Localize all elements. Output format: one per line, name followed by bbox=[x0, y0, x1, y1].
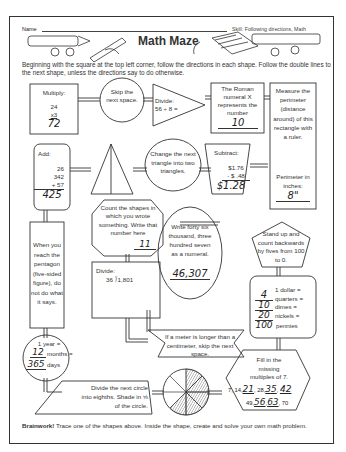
multiple-14: 14, bbox=[234, 387, 242, 393]
perimeter-label: Perimeter in inches: bbox=[272, 172, 314, 190]
multiply-a: 24 bbox=[30, 103, 78, 111]
multiple-49: 49, bbox=[246, 400, 254, 406]
subtract-label: Subtract: bbox=[214, 149, 239, 157]
multiple-70: , 70 bbox=[279, 400, 289, 406]
multiple-42-answer[interactable]: 42 bbox=[280, 384, 291, 394]
multiple-63-answer[interactable]: 63 bbox=[267, 397, 278, 407]
write-text: Write forty six thousand, three hundred … bbox=[166, 222, 214, 258]
meter-text: If a meter is longer than a centimeter, … bbox=[160, 333, 240, 359]
money-pennies-label: pennies bbox=[276, 322, 298, 330]
brainwork-body: Trace one of the shapes above. Inside th… bbox=[54, 422, 306, 429]
money-quarters-label: quarters = bbox=[275, 295, 303, 303]
eighths-text: Divide the next circle into eighths. Sha… bbox=[80, 383, 148, 410]
add-b: 342 bbox=[34, 173, 64, 181]
skip-text: Skip the next space. bbox=[106, 88, 138, 104]
multiply-answer[interactable]: 72 bbox=[30, 118, 78, 129]
perimeter-answer[interactable]: 8" bbox=[276, 190, 310, 202]
roman-answer[interactable]: 10 bbox=[218, 117, 258, 129]
brainwork-text: Brainwork! Trace one of the shapes above… bbox=[22, 422, 322, 430]
multiple-7: 7, bbox=[228, 387, 233, 393]
brainwork-label: Brainwork! bbox=[22, 422, 54, 429]
pentagon-note-text: When you reach the pentagon (five-sided … bbox=[30, 240, 64, 307]
write-answer[interactable]: 46,307 bbox=[170, 268, 210, 280]
divide1-expr: 56 ÷ 8 = bbox=[155, 105, 191, 113]
year-months-label: months = bbox=[47, 350, 73, 358]
count-answer[interactable]: 11 bbox=[134, 239, 156, 250]
year-days-label: days bbox=[47, 361, 60, 369]
multiples-row2: 49,56,63, 70 bbox=[246, 397, 306, 407]
multiples-text: Fill in the missing multiples of 7. bbox=[246, 356, 292, 382]
change-triangle-text: Change the next triangle into two triang… bbox=[148, 150, 198, 176]
subtract-a: $1.76 bbox=[222, 164, 250, 172]
multiple-35-answer[interactable]: 35 bbox=[265, 384, 276, 394]
count-text: Count the shapes in which you wrote some… bbox=[96, 204, 160, 238]
measure-text: Measure the perimeter (distance around) … bbox=[272, 86, 314, 141]
comma: , bbox=[277, 387, 279, 393]
multiples-row1: 7, 14,21, 28,35, 42 bbox=[228, 384, 308, 394]
roman-text: The Roman numeral X represents the numbe… bbox=[213, 85, 262, 117]
divide1-label: Divide: bbox=[155, 97, 191, 105]
year-months-answer[interactable]: 12 bbox=[30, 347, 46, 358]
money-dimes-label: dimes = bbox=[275, 303, 297, 311]
year-days-answer[interactable]: 365 bbox=[26, 359, 46, 370]
stand-up-text: Stand up and count backwards by fives fr… bbox=[256, 230, 306, 264]
multiple-21-answer[interactable]: 21 bbox=[243, 384, 254, 394]
multiple-28: , 28, bbox=[254, 387, 265, 393]
money-line1: 1 dollar = bbox=[275, 286, 301, 294]
add-label: Add: bbox=[38, 150, 51, 158]
divide2-label: Divide: bbox=[96, 267, 115, 275]
multiple-56-answer[interactable]: 56 bbox=[254, 397, 265, 407]
subtract-answer[interactable]: $1.28 bbox=[214, 180, 248, 191]
multiply-label: Multiply: bbox=[30, 89, 78, 97]
money-pennies-answer[interactable]: 100 bbox=[253, 320, 275, 330]
add-a: 26 bbox=[34, 165, 64, 173]
add-answer[interactable]: 425 bbox=[34, 189, 70, 200]
money-nickels-label: nickels = bbox=[275, 312, 299, 320]
divide2-expr: 36 ⟌1,801 bbox=[106, 276, 133, 284]
